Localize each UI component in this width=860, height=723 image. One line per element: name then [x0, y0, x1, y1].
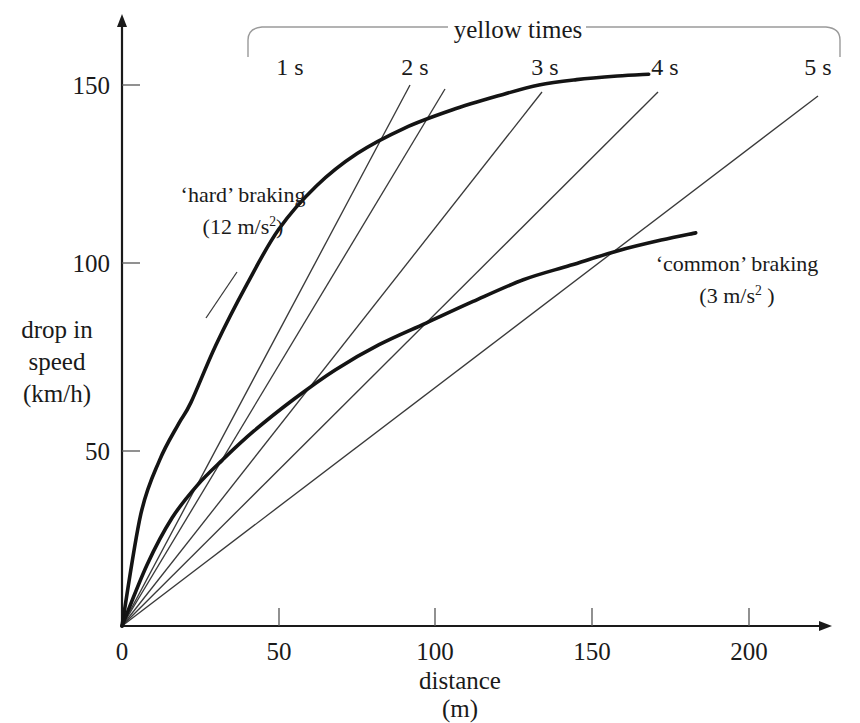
y-ticks	[122, 85, 140, 451]
yellow-time-line-1s	[122, 85, 410, 626]
y-axis-title-line3: (km/h)	[2, 380, 112, 408]
y-axis-title-line1: drop in	[2, 316, 112, 344]
common-braking-unit-prefix: (3 m/s	[699, 283, 755, 308]
bracket-left-arc	[248, 27, 448, 57]
common-braking-unit-exponent: 2	[755, 283, 762, 298]
hard-braking-annotation-line1: ‘hard’ braking	[148, 183, 338, 208]
yellow-time-label-1s: 1 s	[263, 54, 317, 81]
common-braking-unit-suffix: )	[762, 283, 775, 308]
x-tick-label-50: 50	[253, 638, 305, 666]
x-tick-label-0: 0	[104, 638, 140, 666]
x-tick-label-200: 200	[716, 638, 782, 666]
x-tick-label-100: 100	[402, 638, 468, 666]
hard-braking-unit-suffix: )	[276, 214, 283, 239]
yellow-time-label-2s: 2 s	[388, 54, 442, 81]
data-curves	[122, 74, 696, 626]
yellow-time-line-4s	[122, 92, 658, 626]
yellow-time-label-3s: 3 s	[518, 54, 572, 81]
common-braking-annotation-line2: (3 m/s2 )	[632, 284, 842, 309]
hard-braking-curve	[122, 74, 649, 626]
hard-braking-annotation-line2: (12 m/s2)	[148, 215, 338, 240]
y-axis-title-line2: speed	[2, 348, 112, 376]
hard-braking-unit-prefix: (12 m/s	[203, 214, 270, 239]
yellow-time-line-2s	[122, 89, 445, 626]
bracket-right-arc	[586, 27, 840, 57]
x-tick-label-150: 150	[559, 638, 625, 666]
y-tick-label-150: 150	[48, 72, 110, 100]
common-braking-annotation-line1: ‘common’ braking	[632, 252, 842, 277]
yellow-time-lines	[122, 85, 818, 626]
y-tick-label-50: 50	[48, 438, 110, 466]
x-axis-unit: (m)	[390, 695, 530, 723]
yellow-time-line-5s	[122, 96, 818, 626]
x-axis-title: distance	[390, 667, 530, 695]
yellow-time-label-4s: 4 s	[638, 54, 692, 81]
y-tick-label-100: 100	[48, 250, 110, 278]
common-braking-curve	[122, 233, 696, 626]
yellow-time-label-5s: 5 s	[791, 54, 845, 81]
yellow-times-bracket-label: yellow times	[443, 16, 593, 44]
x-ticks	[279, 608, 749, 626]
